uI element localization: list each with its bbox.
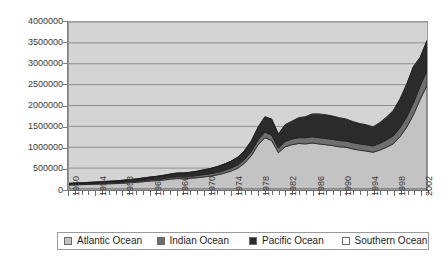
legend-item[interactable]: Atlantic Ocean [58,236,151,246]
x-axis-tick-mark [245,191,246,195]
x-axis-tick-label: 1958 [126,176,135,196]
legend-item[interactable]: Indian Ocean [151,236,244,246]
y-axis-tick-mark [63,21,68,22]
x-axis-tick-mark [408,191,409,195]
y-axis-tick-mark [63,106,68,107]
x-axis-tick-mark [299,191,300,195]
legend-swatch-icon [249,237,257,245]
x-axis-tick-mark [306,191,307,195]
chart-legend: Atlantic OceanIndian OceanPacific OceanS… [57,232,429,250]
x-axis-tick-mark [217,191,218,195]
x-axis-tick-label: 1966 [181,176,190,196]
x-axis-tick-mark [279,191,280,195]
y-axis-tick-label: 1500000 [0,122,63,131]
y-axis-tick-label: 4000000 [0,17,63,26]
x-axis-tick-mark [197,191,198,195]
y-axis-tick-mark [63,84,68,85]
x-axis-tick-mark [136,191,137,195]
plot-area [68,21,428,190]
x-axis-tick-label: 1970 [208,176,217,196]
y-axis-tick-label: 2000000 [0,101,63,110]
x-axis-tick-label: 1962 [154,176,163,196]
x-axis-tick-mark [109,191,110,195]
x-axis-tick-mark [360,191,361,195]
legend-label: Southern Ocean [355,236,428,246]
x-axis-tick-mark [163,191,164,195]
legend-label: Atlantic Ocean [77,236,142,246]
x-axis-tick-label: 1990 [344,176,353,196]
x-axis-tick-label: 1978 [262,176,271,196]
x-axis-tick-mark [326,191,327,195]
x-axis-tick-mark [82,191,83,195]
legend-swatch-icon [157,237,165,245]
x-axis-tick-label: 1982 [289,176,298,196]
x-axis-labels: 1950195419581962196619701974197819821986… [68,196,428,230]
x-axis-tick-label: 2002 [425,176,434,196]
legend-item[interactable]: Pacific Ocean [243,236,336,246]
x-axis-tick-mark [414,191,415,195]
y-axis: 0500000100000015000002000000250000030000… [0,0,63,200]
x-axis-tick-mark [224,191,225,195]
x-axis-tick-mark [116,191,117,195]
x-axis-tick-label: 1974 [235,176,244,196]
chart-root: 0500000100000015000002000000250000030000… [0,0,445,262]
y-axis-tick-mark [63,148,68,149]
y-axis-tick-label: 3500000 [0,38,63,47]
x-axis-tick-mark [333,191,334,195]
y-axis-tick-label: 0 [0,186,63,195]
x-axis-tick-label: 1950 [72,176,81,196]
x-axis-tick-mark [272,191,273,195]
legend-label: Pacific Ocean [262,236,324,246]
y-axis-tick-mark [63,63,68,64]
legend-swatch-icon [342,237,350,245]
x-axis-tick-mark [353,191,354,195]
y-axis-tick-mark [63,169,68,170]
x-axis-tick-label: 1994 [371,176,380,196]
y-axis-tick-mark [63,127,68,128]
y-axis-tick-mark [63,190,68,191]
legend-label: Indian Ocean [170,236,230,246]
x-axis-tick-mark [170,191,171,195]
stacked-area-svg [69,22,427,189]
x-axis-tick-label: 1986 [317,176,326,196]
y-axis-tick-mark [63,42,68,43]
y-axis-tick-label: 2500000 [0,80,63,89]
x-axis-tick-label: 1998 [398,176,407,196]
x-axis-tick-mark [251,191,252,195]
x-axis-tick-mark [88,191,89,195]
x-axis-tick-mark [190,191,191,195]
x-axis-tick-label: 1954 [99,176,108,196]
legend-swatch-icon [64,237,72,245]
y-axis-tick-label: 1000000 [0,143,63,152]
x-axis-tick-mark [380,191,381,195]
x-axis-tick-mark [143,191,144,195]
y-axis-tick-label: 3000000 [0,59,63,68]
legend-item[interactable]: Southern Ocean [336,236,429,246]
x-axis-tick-mark [387,191,388,195]
y-axis-tick-label: 500000 [0,164,63,173]
